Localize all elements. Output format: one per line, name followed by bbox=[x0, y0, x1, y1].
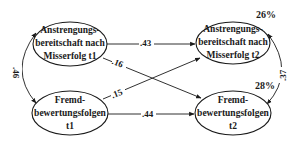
coef-corr-t1: .46 bbox=[11, 67, 21, 79]
node-fremd-t2: Fremd- bewertungsfolgen t2 bbox=[195, 91, 271, 135]
node-label: Fremd- bbox=[55, 95, 85, 105]
r2-anstrengung-t2: 26% bbox=[256, 9, 276, 20]
node-label: bereitschaft nach bbox=[35, 38, 105, 48]
node-label: bewertungsfolgen bbox=[34, 108, 106, 118]
node-anstrengung-t2: Anstrengungs- bereitschaft nach Misserfo… bbox=[196, 22, 270, 64]
path-diagram: .43 .16 .15 .44 .46 .37 26% 28% Anstreng… bbox=[0, 0, 296, 145]
node-fremd-t1: Fremd- bewertungsfolgen t1 bbox=[32, 91, 108, 135]
node-label: bereitschaft nach bbox=[198, 37, 268, 47]
node-label: Anstrengungs- bbox=[203, 24, 262, 34]
node-label: t2 bbox=[229, 121, 237, 131]
coef-corr-t2: .37 bbox=[278, 69, 288, 81]
node-label: t1 bbox=[66, 121, 74, 131]
node-label: Misserfolg t1 bbox=[43, 51, 96, 61]
node-anstrengung-t1: Anstrengungs- bereitschaft nach Misserfo… bbox=[33, 22, 107, 66]
r2-fremd-t2: 28% bbox=[255, 80, 275, 91]
node-label: bewertungsfolgen bbox=[197, 108, 269, 118]
node-label: Anstrengungs- bbox=[40, 25, 99, 35]
coef-a1-a2: .43 bbox=[140, 38, 152, 48]
node-label: Fremd- bbox=[218, 95, 248, 105]
coef-f1-f2: .44 bbox=[142, 109, 154, 119]
node-label: Misserfolg t2 bbox=[206, 50, 259, 60]
